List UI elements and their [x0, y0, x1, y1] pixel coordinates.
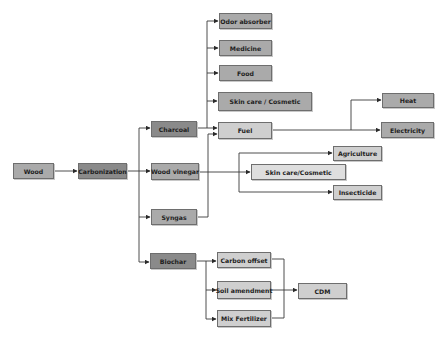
node-label: Carbonization [78, 168, 127, 175]
node-label: Biochar [160, 258, 186, 265]
node-skin-care-cosmetic: Skin care / Cosmetic [218, 92, 312, 111]
flow-diagram: Wood Carbonization Charcoal Wood vinegar… [0, 0, 447, 339]
node-heat: Heat [382, 93, 434, 108]
node-label: Fuel [238, 127, 253, 134]
node-label: Syngas [161, 214, 186, 221]
node-label: Wood [24, 168, 44, 175]
node-skin-care-cosmetic-2: Skin care/Cosmetic [251, 164, 346, 180]
node-charcoal: Charcoal [151, 121, 197, 137]
node-label: Mix Fertilizer [221, 315, 267, 322]
node-biochar: Biochar [150, 253, 196, 269]
node-insecticide: Insecticide [333, 185, 382, 200]
node-label: Wood vinegar [151, 168, 199, 175]
node-odor-absorber: Odor absorber [219, 13, 272, 29]
node-medicine: Medicine [219, 40, 272, 56]
node-label: Odor absorber [220, 18, 270, 25]
node-label: Heat [400, 97, 417, 104]
node-carbonization: Carbonization [78, 163, 127, 179]
node-cdm: CDM [298, 283, 347, 299]
node-carbon-offset: Carbon offset [217, 252, 271, 268]
node-electricity: Electricity [381, 122, 434, 138]
node-label: CDM [315, 288, 331, 295]
node-food: Food [219, 65, 272, 81]
node-label: Skin care/Cosmetic [265, 169, 331, 176]
node-label: Carbon offset [220, 257, 267, 264]
node-label: Soil amendment [216, 287, 273, 294]
node-syngas: Syngas [151, 209, 197, 225]
node-label: Skin care / Cosmetic [230, 98, 301, 105]
node-label: Agriculture [338, 150, 377, 157]
node-fuel: Fuel [218, 122, 272, 139]
node-label: Food [237, 70, 254, 77]
node-label: Electricity [390, 127, 425, 134]
node-wood: Wood [13, 163, 54, 179]
node-wood-vinegar: Wood vinegar [151, 163, 199, 180]
node-soil-amendment: Soil amendment [217, 281, 271, 299]
node-label: Charcoal [159, 126, 189, 133]
node-agriculture: Agriculture [333, 146, 382, 161]
node-label: Medicine [230, 45, 261, 52]
node-mix-fertilizer: Mix Fertilizer [217, 310, 271, 327]
node-label: Insecticide [339, 189, 377, 196]
